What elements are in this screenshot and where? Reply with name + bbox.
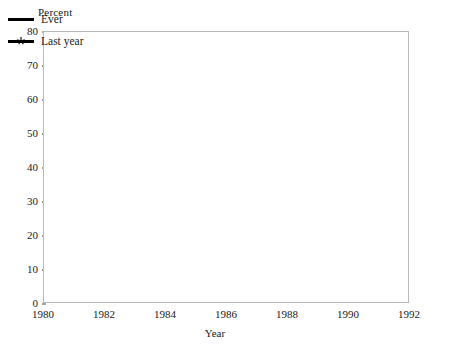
legend-item[interactable]: Ever — [8, 8, 158, 30]
star-marker-icon — [8, 35, 34, 47]
legend-label: Ever — [41, 13, 63, 25]
legend-line — [8, 18, 34, 21]
chart-screenshot: Percent 01020304050607080 Year EverLast … — [0, 0, 454, 353]
star-marker-icon — [21, 40, 25, 41]
x-axis-tick-label: 1986 — [215, 308, 237, 320]
line-swatch-icon — [8, 13, 34, 25]
chart-legend: EverLast year — [8, 8, 158, 52]
x-axis-title-text: Year — [205, 327, 225, 339]
legend-label: Last year — [41, 35, 83, 47]
x-axis-tick-label: 1982 — [93, 308, 115, 320]
data-point-marker — [17, 37, 25, 44]
x-axis-title: Year — [0, 327, 454, 339]
star-marker-icon — [8, 35, 34, 47]
y-axis-tick-label: 20 — [4, 230, 38, 241]
plot-frame — [43, 31, 409, 303]
y-axis-tick-label: 60 — [4, 94, 38, 105]
star-marker-icon — [19, 41, 21, 44]
x-axis-tick-label: 1990 — [337, 308, 359, 320]
y-axis-tick-label: 50 — [4, 128, 38, 139]
y-axis-tick-label: 70 — [4, 60, 38, 71]
x-axis-tick-label: 1988 — [276, 308, 298, 320]
star-marker-icon — [17, 40, 21, 41]
y-axis-tick-label: 30 — [4, 196, 38, 207]
legend-item[interactable]: Last year — [8, 30, 158, 52]
x-axis-tick-label: 1984 — [154, 308, 176, 320]
y-axis-tick-labels: 01020304050607080 — [0, 31, 38, 303]
y-axis-tick-label: 10 — [4, 264, 38, 275]
x-axis-tick-label: 1980 — [32, 308, 54, 320]
y-axis-tick-mark — [42, 303, 46, 304]
y-axis-tick-label: 0 — [4, 298, 38, 309]
y-axis-tick-label: 40 — [4, 162, 38, 173]
star-marker-icon — [21, 41, 23, 44]
x-axis-tick-label: 1992 — [398, 308, 420, 320]
plot-area — [43, 31, 409, 303]
